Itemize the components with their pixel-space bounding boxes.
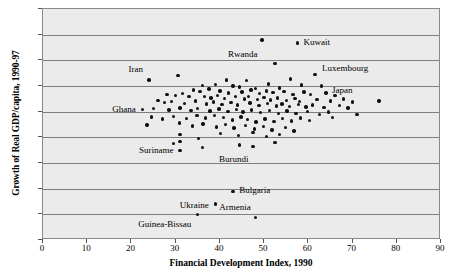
x-tick-mark [219,239,220,243]
plot-area: RwandaKuwaitIranLuxembourgJapanGhanaSuri… [42,8,440,239]
x-tick-label: 90 [425,243,455,253]
data-point [315,98,318,101]
data-point [178,106,181,109]
data-point [273,62,276,65]
data-point [205,102,208,105]
data-point [269,98,272,101]
x-tick-mark [352,239,353,243]
data-point [346,106,349,109]
x-tick-mark [263,239,264,243]
data-point [284,126,287,129]
data-point [259,111,262,114]
y-tick-mark [38,213,42,214]
x-tick-mark [307,239,308,243]
data-point [248,101,251,104]
data-point [342,97,345,100]
data-point [147,78,150,81]
data-point [293,97,296,100]
data-point [272,120,275,123]
data-point [251,145,254,148]
data-point [187,95,190,98]
gridline [43,60,439,61]
data-point [195,114,198,117]
data-point [172,115,175,118]
data-point [213,114,216,117]
x-tick-label: 30 [160,243,190,253]
data-point [176,74,179,77]
data-point [260,38,263,41]
data-point [276,96,279,99]
x-tick-label: 40 [204,243,234,253]
data-point [263,117,266,120]
data-point [246,118,249,121]
data-point [225,78,228,81]
data-point [236,103,239,106]
y-tick-mark [38,162,42,163]
data-point [262,96,265,99]
data-point [254,120,257,123]
data-point [306,110,309,113]
data-point [277,112,280,115]
data-point [338,104,341,107]
point-label: Rwanda [43,49,257,59]
data-point [285,109,288,112]
gridline [43,214,439,215]
data-point [234,95,237,98]
data-point [243,97,246,100]
data-point [331,116,334,119]
data-point [222,116,225,119]
data-point [150,115,153,118]
y-tick-mark [38,59,42,60]
data-point [377,99,380,102]
data-point [308,119,311,122]
x-tick-mark [130,239,131,243]
data-point [201,146,204,149]
x-tick-label: 60 [292,243,322,253]
point-label: Ghana [43,104,136,114]
data-point [183,102,186,105]
data-point [212,100,215,103]
x-tick-mark [86,239,87,243]
data-point [318,113,321,116]
point-label: Japan [43,85,353,95]
data-point [209,96,212,99]
data-point [285,99,288,102]
data-point [178,121,181,124]
data-point [217,107,220,110]
data-point [226,110,229,113]
data-point [208,109,211,112]
data-point [297,103,300,106]
data-point [327,110,330,113]
x-tick-mark [42,239,43,243]
data-point [355,113,358,116]
data-point [197,137,200,140]
data-point [178,140,181,143]
x-tick-label: 50 [248,243,278,253]
data-point [313,73,316,76]
gridline [43,35,439,36]
data-point [294,112,297,115]
data-point [273,141,276,144]
x-tick-label: 70 [337,243,367,253]
y-tick-mark [38,85,42,86]
data-point [163,101,166,104]
x-tick-label: 10 [71,243,101,253]
y-axis-title: Growth of Real GDP/capita, 1990-97 [11,10,21,236]
data-point [304,105,307,108]
x-tick-mark [440,239,441,243]
data-point [329,99,332,102]
x-tick-label: 20 [115,243,145,253]
data-point [262,125,265,128]
data-point [289,77,292,80]
data-point [251,131,254,134]
data-point [201,122,204,125]
x-tick-label: 80 [381,243,411,253]
data-point [270,128,273,131]
data-point [299,116,302,119]
data-point [167,108,170,111]
data-point [288,105,291,108]
point-label: Guinea-Bissau [43,219,191,229]
data-point [292,129,295,132]
data-point [231,118,234,121]
y-tick-mark [38,188,42,189]
